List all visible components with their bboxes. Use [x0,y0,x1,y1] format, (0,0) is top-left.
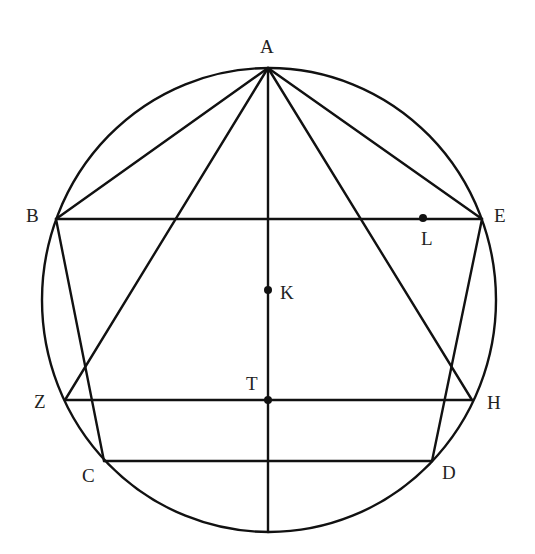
point-L [419,214,427,222]
label-H: H [487,392,501,413]
label-A: A [260,36,274,57]
segment-BC [56,219,104,461]
segment-AE [268,68,482,219]
label-K: K [280,282,294,303]
geometry-diagram: A B E L K T Z H C D [0,0,535,554]
point-T [264,396,272,404]
label-B: B [26,205,39,226]
label-T: T [246,373,258,394]
point-K [264,286,272,294]
segment-AB [56,68,268,219]
label-Z: Z [34,391,46,412]
label-E: E [494,205,506,226]
label-L: L [421,228,433,249]
segment-ED [432,219,482,461]
segment-AZ [65,68,268,400]
label-D: D [442,462,456,483]
segment-AH [268,68,472,400]
label-C: C [82,465,95,486]
